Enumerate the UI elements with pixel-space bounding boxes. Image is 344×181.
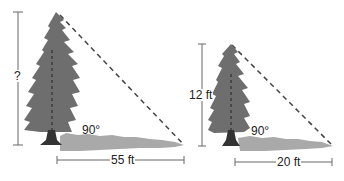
left-tree-icon bbox=[24, 12, 80, 132]
left-hypotenuse-dashed bbox=[60, 15, 184, 145]
right-figure bbox=[198, 44, 333, 166]
right-shadow bbox=[238, 136, 333, 151]
left-angle-label: 90° bbox=[81, 124, 101, 136]
similar-triangles-diagram bbox=[0, 0, 344, 181]
left-height-label: ? bbox=[13, 70, 22, 82]
left-shadow-label: 55 ft bbox=[110, 154, 135, 166]
right-shadow-label: 20 ft bbox=[276, 156, 301, 168]
left-figure bbox=[13, 12, 184, 164]
right-height-label: 12 ft bbox=[188, 89, 213, 101]
left-shadow bbox=[60, 133, 184, 151]
left-tree-trunk bbox=[40, 130, 62, 145]
right-angle-label: 90° bbox=[250, 125, 270, 137]
right-hypotenuse-dashed bbox=[232, 45, 333, 146]
right-tree-icon bbox=[208, 44, 250, 133]
